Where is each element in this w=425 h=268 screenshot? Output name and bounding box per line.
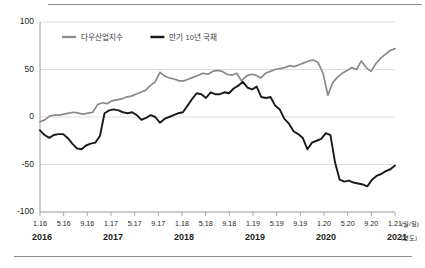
x-tick-label: 1.18 xyxy=(175,219,189,228)
y-tick-label: 0 xyxy=(29,111,34,121)
x-axis-unit-label: (월/일) xyxy=(401,220,419,228)
bottom-divider-rule xyxy=(14,256,412,257)
x-year-label: 2020 xyxy=(316,232,336,242)
series-line-2 xyxy=(40,82,395,187)
x-tick-label: 1.16 xyxy=(33,219,47,228)
y-tick-label: -50 xyxy=(22,159,35,169)
x-tick-label: 5.20 xyxy=(341,219,355,228)
x-tick-label: 5.16 xyxy=(57,219,71,228)
x-tick-label: 9.19 xyxy=(293,219,307,228)
series-line-1 xyxy=(40,49,395,122)
x-tick-label: 1.19 xyxy=(246,219,260,228)
x-tick-label: 1.21 xyxy=(388,219,402,228)
y-tick-label: -100 xyxy=(17,206,34,216)
line-chart: 100500-50-1001.165.169.161.175.179.171.1… xyxy=(0,12,425,256)
year-axis-unit-label: (연도) xyxy=(401,234,417,241)
x-year-label: 2018 xyxy=(174,232,194,242)
x-tick-label: 9.18 xyxy=(222,219,236,228)
x-year-label: 2017 xyxy=(103,232,123,242)
x-tick-label: 5.17 xyxy=(128,219,142,228)
x-tick-label: 9.20 xyxy=(364,219,378,228)
legend-label-2: 만기 10년 국채 xyxy=(169,32,217,42)
y-tick-label: 100 xyxy=(20,16,34,26)
figure-page: 100500-50-1001.165.169.161.175.179.171.1… xyxy=(0,0,425,268)
x-tick-label: 9.17 xyxy=(151,219,165,228)
chart-figure: 100500-50-1001.165.169.161.175.179.171.1… xyxy=(0,12,425,256)
x-tick-label: 1.17 xyxy=(104,219,118,228)
x-tick-label: 5.18 xyxy=(199,219,213,228)
x-year-label: 2019 xyxy=(245,232,265,242)
x-tick-label: 5.19 xyxy=(270,219,284,228)
top-divider-rule xyxy=(48,4,422,5)
x-tick-label: 9.16 xyxy=(80,219,94,228)
y-tick-label: 50 xyxy=(25,64,35,74)
x-year-label: 2016 xyxy=(32,232,52,242)
legend-label-1: 다우산업지수 xyxy=(81,32,123,42)
x-tick-label: 1.20 xyxy=(317,219,331,228)
